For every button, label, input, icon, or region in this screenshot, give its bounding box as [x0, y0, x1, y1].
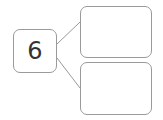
whole-number-value: 6: [27, 37, 42, 65]
connector-line-top: [57, 22, 80, 44]
whole-number-box: 6: [13, 29, 57, 73]
part-box-bottom[interactable]: [80, 62, 152, 115]
connector-line-bottom: [57, 58, 80, 88]
part-box-top[interactable]: [80, 6, 152, 58]
